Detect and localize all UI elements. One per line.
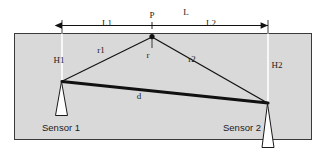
point-p-marker <box>149 34 154 39</box>
label-height-right: H2 <box>272 60 283 70</box>
label-sensor-separation: d <box>137 91 142 101</box>
label-range-right: r2 <box>188 54 196 64</box>
label-depth-center: r <box>147 50 150 60</box>
dimension-line-group <box>62 22 268 29</box>
p-vertex-dot <box>149 34 154 39</box>
label-sensor-right: Sensor 2 <box>223 122 261 133</box>
label-source-point: P <box>149 10 154 20</box>
label-height-left: H1 <box>54 55 65 65</box>
diagram-canvas: L L1 L2 P r1 r r2 d H1 H2 Sensor 1 Senso… <box>0 0 326 158</box>
label-right-span: L2 <box>206 18 216 28</box>
label-total-span: L <box>183 7 189 17</box>
label-range-left: r1 <box>97 45 105 55</box>
figure-root: L L1 L2 P r1 r r2 d H1 H2 Sensor 1 Senso… <box>0 0 326 158</box>
label-left-span: L1 <box>102 18 112 28</box>
label-sensor-left: Sensor 1 <box>42 122 80 133</box>
